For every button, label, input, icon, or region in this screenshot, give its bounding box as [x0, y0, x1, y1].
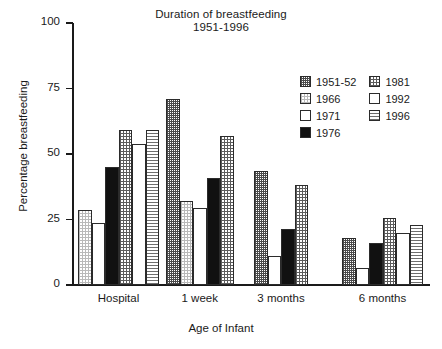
legend-item-1951-52: 1951-52 [300, 74, 356, 89]
bar-6-months-1951-52 [342, 238, 356, 285]
legend-swatch-icon [369, 93, 380, 104]
bar-1-week-1981 [220, 136, 234, 285]
legend-column-right: 198119921996 [369, 74, 409, 140]
bar-6-months-1971 [356, 268, 370, 285]
bar-3-months-1951-52 [254, 171, 268, 285]
legend-label: 1976 [316, 127, 340, 139]
bar-3-months-1976 [281, 229, 295, 285]
bar-hospital-1976 [105, 167, 119, 285]
legend-item-1996: 1996 [369, 108, 409, 123]
y-tick-mark [66, 284, 73, 285]
bar-3-months-1971 [268, 256, 282, 285]
bar-1-week-1976 [207, 178, 221, 285]
y-tick-label: 100 [26, 15, 60, 27]
bar-6-months-1992 [396, 233, 410, 285]
y-tick-mark [66, 219, 73, 220]
legend-item-1981: 1981 [369, 74, 409, 89]
y-tick-label: 50 [26, 146, 60, 158]
bar-hospital-1971 [92, 223, 106, 285]
bar-hospital-1996 [146, 130, 160, 285]
bar-6-months-1996 [410, 225, 424, 285]
legend-column-left: 1951-52196619711976 [300, 74, 356, 140]
x-axis-label: Age of Infant [0, 322, 442, 334]
chart-legend: 1951-52196619711976 198119921996 [300, 74, 438, 140]
bar-hospital-1992 [132, 144, 146, 285]
bar-6-months-1981 [383, 218, 397, 285]
legend-item-1992: 1992 [369, 91, 409, 106]
y-tick-mark [66, 22, 73, 23]
chart-figure: Duration of breastfeeding 1951-1996 0255… [0, 0, 442, 349]
y-tick-mark [66, 88, 73, 89]
y-tick-label: 0 [26, 277, 60, 289]
x-category-label: 6 months [333, 292, 433, 304]
bar-1-week-1951-52 [166, 99, 180, 285]
y-tick-label: 25 [26, 212, 60, 224]
legend-label: 1992 [385, 93, 409, 105]
y-tick-label: 75 [26, 81, 60, 93]
x-category-label: 3 months [231, 292, 331, 304]
legend-swatch-icon [300, 93, 311, 104]
legend-label: 1996 [385, 110, 409, 122]
legend-swatch-icon [300, 127, 311, 138]
y-axis-label: Percentage breastfeeding [17, 51, 29, 241]
bar-1-week-1971 [193, 208, 207, 285]
bar-1-week-1966 [180, 201, 194, 285]
bar-6-months-1976 [369, 243, 383, 285]
legend-label: 1966 [316, 93, 340, 105]
legend-item-1966: 1966 [300, 91, 356, 106]
legend-item-1976: 1976 [300, 125, 356, 140]
legend-item-1971: 1971 [300, 108, 356, 123]
bar-hospital-1981 [119, 130, 133, 285]
legend-swatch-icon [369, 76, 380, 87]
legend-swatch-icon [369, 110, 380, 121]
legend-label: 1971 [316, 110, 340, 122]
legend-swatch-icon [300, 76, 311, 87]
legend-swatch-icon [300, 110, 311, 121]
bar-hospital-1966 [78, 210, 92, 285]
legend-label: 1981 [385, 76, 409, 88]
plot-area [73, 23, 430, 285]
y-tick-mark [66, 153, 73, 154]
legend-label: 1951-52 [316, 76, 356, 88]
bar-3-months-1981 [295, 185, 309, 285]
